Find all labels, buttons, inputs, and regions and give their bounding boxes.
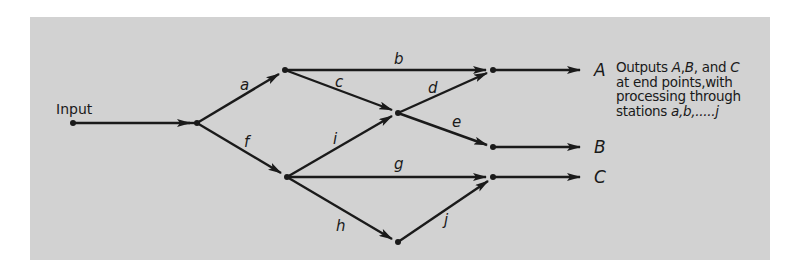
node-input: [70, 120, 76, 126]
node-A: [490, 67, 496, 73]
edge-label-c: c: [335, 73, 344, 91]
edge-label-g: g: [394, 155, 404, 173]
output-label-C: C: [594, 167, 606, 187]
note-line-1: Outputs A,B, and C: [616, 60, 776, 75]
edge-j: [398, 181, 488, 242]
edge-i: [287, 116, 392, 177]
flow-network-diagram: Input a b c d e f g h i j A B C: [0, 0, 792, 269]
node-C: [490, 174, 496, 180]
edge-label-d: d: [428, 79, 438, 97]
edge-label-j: j: [442, 211, 449, 229]
node-cross: [395, 110, 401, 116]
edge-d: [398, 73, 487, 113]
edge-label-h: h: [336, 217, 346, 235]
edge-a: [197, 74, 279, 123]
edge-label-a: a: [240, 76, 249, 94]
output-label-A: A: [593, 60, 606, 80]
node-bottom: [395, 239, 401, 245]
node-split: [194, 120, 200, 126]
edge-label-b: b: [394, 50, 404, 68]
node-B: [490, 144, 496, 150]
edge-label-i: i: [333, 130, 338, 148]
output-label-B: B: [594, 137, 606, 157]
note-line-2: at end points,with: [616, 75, 776, 90]
note-line-4: stations a,b,.....j: [616, 104, 776, 119]
edge-label-e: e: [452, 113, 461, 131]
input-label: Input: [56, 101, 93, 117]
edge-e: [398, 113, 487, 145]
node-mid: [284, 174, 290, 180]
node-top: [282, 67, 288, 73]
outputs-note: Outputs A,B, and C at end points,with pr…: [616, 60, 776, 118]
edge-f: [197, 123, 281, 173]
note-line-3: processing through: [616, 89, 776, 104]
edge-label-f: f: [244, 133, 252, 151]
